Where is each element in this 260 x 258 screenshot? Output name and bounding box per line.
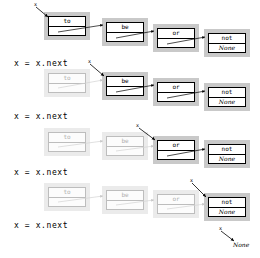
node-next-cell-none: None <box>208 154 246 164</box>
node-value-cell: or <box>157 194 195 204</box>
linked-list-traversal-figure: x to be or not <box>0 0 260 258</box>
pointer-label-x-row1: x <box>34 1 37 7</box>
node-value-cell: or <box>157 140 195 150</box>
node-value-cell: be <box>106 136 144 146</box>
node-next-cell <box>157 150 195 160</box>
node-next-cell-none: None <box>208 97 246 107</box>
code-line-4: x = x.next <box>14 221 68 230</box>
node-value-cell: not <box>208 33 246 43</box>
node-next-cell <box>157 92 195 102</box>
node-next-cell <box>157 204 195 214</box>
node-value-cell: to <box>48 132 86 142</box>
pointer-label-x-row5: x <box>219 225 222 231</box>
node-next-cell <box>106 32 144 42</box>
node-next-cell <box>157 38 195 48</box>
node-next-cell <box>48 142 86 152</box>
code-line-1: x = x.next <box>14 59 68 68</box>
node-value-cell: be <box>106 190 144 200</box>
node-next-cell <box>48 83 86 93</box>
node-next-cell <box>106 86 144 96</box>
pointer-label-x-row3: x <box>136 122 139 128</box>
pointer-label-x-row4: x <box>190 177 193 183</box>
pointer-arrow-row5 <box>221 231 234 241</box>
node-value-cell: to <box>48 187 86 197</box>
node-value-cell: or <box>157 82 195 92</box>
null-target-label: None <box>233 241 249 248</box>
node-value-cell: to <box>48 73 86 83</box>
code-line-2: x = x.next <box>14 112 68 121</box>
node-value-cell: be <box>106 22 144 32</box>
node-value-cell: be <box>106 76 144 86</box>
node-value-cell: not <box>208 144 246 154</box>
node-next-cell <box>106 200 144 210</box>
pointer-label-x-row2: x <box>88 58 91 64</box>
node-value-cell: to <box>48 16 86 26</box>
node-next-cell <box>106 146 144 156</box>
node-next-cell-none: None <box>208 43 246 53</box>
node-next-cell <box>48 197 86 207</box>
node-value-cell: not <box>208 87 246 97</box>
node-next-cell-none: None <box>208 207 246 217</box>
node-value-cell: or <box>157 28 195 38</box>
node-next-cell <box>48 26 86 36</box>
code-line-3: x = x.next <box>14 168 68 177</box>
node-value-cell: not <box>208 197 246 207</box>
